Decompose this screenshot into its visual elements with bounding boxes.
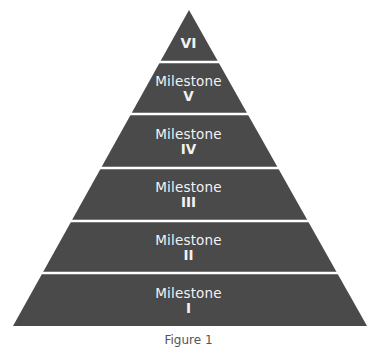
level-3-numeral: III	[0, 195, 377, 210]
level-3-name: Milestone	[0, 180, 377, 195]
figure-caption: Figure 1	[0, 333, 377, 347]
level-2-numeral: II	[0, 248, 377, 263]
level-3-label: Milestone III	[0, 180, 377, 210]
level-1-label: Milestone I	[0, 286, 377, 316]
level-2-name: Milestone	[0, 233, 377, 248]
level-6-label: VI	[0, 36, 377, 51]
level-5-name: Milestone	[0, 74, 377, 89]
level-5-label: Milestone V	[0, 74, 377, 104]
level-1-name: Milestone	[0, 286, 377, 301]
level-6-numeral: VI	[0, 36, 377, 51]
level-2-label: Milestone II	[0, 233, 377, 263]
level-1-numeral: I	[0, 301, 377, 316]
level-4-name: Milestone	[0, 127, 377, 142]
level-5-numeral: V	[0, 89, 377, 104]
level-4-numeral: IV	[0, 142, 377, 157]
level-4-label: Milestone IV	[0, 127, 377, 157]
